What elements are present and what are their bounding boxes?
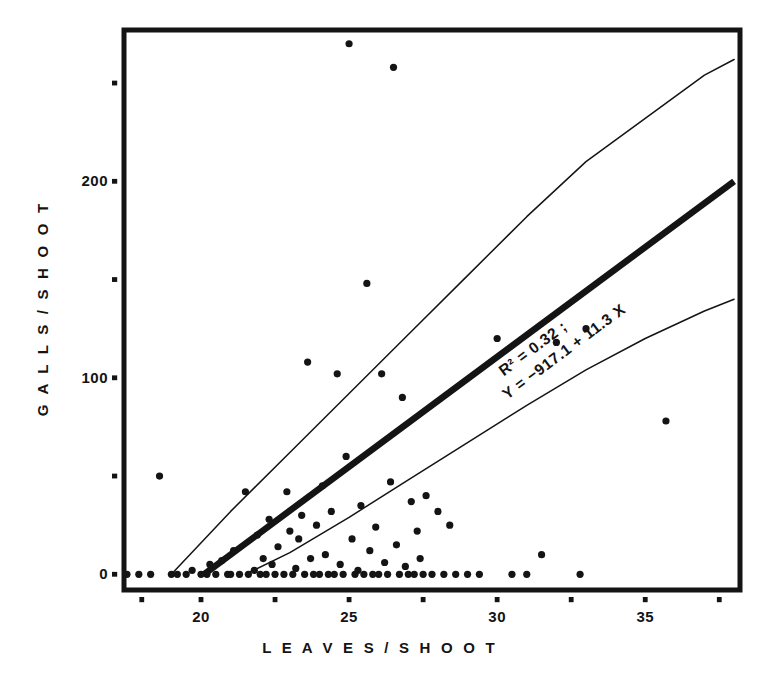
data-point xyxy=(322,551,329,558)
x-tick-mark xyxy=(495,597,500,602)
data-point xyxy=(345,40,352,47)
data-point xyxy=(147,571,154,578)
data-point xyxy=(422,492,429,499)
data-point xyxy=(331,571,338,578)
y-tick-label: 100 xyxy=(52,369,108,386)
data-point xyxy=(212,571,219,578)
data-point xyxy=(381,559,388,566)
x-tick-mark xyxy=(717,597,722,602)
data-point xyxy=(434,508,441,515)
x-tick-mark xyxy=(199,597,204,602)
data-point xyxy=(298,512,305,519)
data-point xyxy=(464,571,471,578)
data-point xyxy=(266,516,273,523)
data-point xyxy=(337,561,344,568)
data-point xyxy=(301,571,308,578)
y-tick-mark xyxy=(112,474,117,479)
data-point xyxy=(408,498,415,505)
data-point xyxy=(494,335,501,342)
data-point xyxy=(366,547,373,554)
confidence-band-upper xyxy=(171,59,734,574)
data-point xyxy=(254,531,261,538)
data-point xyxy=(414,527,421,534)
regression-line-path xyxy=(204,181,734,574)
y-tick-label: 0 xyxy=(52,565,108,582)
plot-canvas: R² = 0.32 ; Y = −917.1 + 11.3 X xyxy=(0,0,763,685)
confidence-bands xyxy=(171,59,734,574)
data-point xyxy=(662,417,669,424)
data-point xyxy=(378,370,385,377)
data-point xyxy=(343,453,350,460)
data-point xyxy=(387,478,394,485)
data-point xyxy=(375,571,382,578)
y-tick-mark xyxy=(112,179,117,184)
x-tick-mark xyxy=(139,597,144,602)
data-point xyxy=(251,567,258,574)
data-point xyxy=(393,541,400,548)
data-point xyxy=(268,561,275,568)
data-point xyxy=(230,547,237,554)
data-point xyxy=(428,571,435,578)
data-point xyxy=(452,571,459,578)
data-points xyxy=(123,40,669,578)
data-point xyxy=(363,280,370,287)
x-tick-mark xyxy=(273,597,278,602)
data-point xyxy=(203,571,210,578)
data-point xyxy=(156,472,163,479)
data-point xyxy=(334,370,341,377)
scatter-plot-figure: R² = 0.32 ; Y = −917.1 + 11.3 X G A L L … xyxy=(0,0,763,685)
y-tick-mark xyxy=(112,277,117,282)
data-point xyxy=(292,565,299,572)
data-point xyxy=(283,488,290,495)
data-point xyxy=(348,535,355,542)
data-point xyxy=(307,555,314,562)
data-point xyxy=(402,563,409,570)
x-tick-mark xyxy=(421,597,426,602)
data-point xyxy=(417,555,424,562)
x-tick-mark xyxy=(643,597,648,602)
data-point xyxy=(357,502,364,509)
x-tick-label: 30 xyxy=(469,608,525,625)
data-point xyxy=(328,508,335,515)
y-tick-mark xyxy=(112,81,117,86)
y-tick-label: 200 xyxy=(52,172,108,189)
data-point xyxy=(123,571,130,578)
data-point xyxy=(295,535,302,542)
data-point xyxy=(523,571,530,578)
data-point xyxy=(446,522,453,529)
data-point xyxy=(263,571,270,578)
data-point xyxy=(206,561,213,568)
data-point xyxy=(271,571,278,578)
data-point xyxy=(245,571,252,578)
data-point xyxy=(396,571,403,578)
regression-line xyxy=(204,181,734,574)
data-point xyxy=(538,551,545,558)
data-point xyxy=(384,571,391,578)
data-point xyxy=(399,394,406,401)
x-axis-title: L E A V E S / S H O O T xyxy=(170,639,590,656)
data-point xyxy=(340,571,347,578)
data-point xyxy=(242,488,249,495)
x-tick-label: 35 xyxy=(617,608,673,625)
data-point xyxy=(420,571,427,578)
y-tick-mark xyxy=(112,572,117,577)
data-point xyxy=(260,555,267,562)
data-point xyxy=(286,527,293,534)
data-point xyxy=(411,571,418,578)
data-point xyxy=(476,571,483,578)
y-axis-title: G A L L S / S H O O T xyxy=(34,199,51,419)
regression-annotation: R² = 0.32 ; Y = −917.1 + 11.3 X xyxy=(495,300,628,402)
data-point xyxy=(183,571,190,578)
data-point xyxy=(274,543,281,550)
data-point xyxy=(135,571,142,578)
data-point xyxy=(236,571,243,578)
x-tick-mark xyxy=(569,597,574,602)
data-point xyxy=(304,358,311,365)
data-point xyxy=(313,522,320,529)
data-point xyxy=(508,571,515,578)
data-point xyxy=(319,482,326,489)
data-point xyxy=(227,571,234,578)
tick-marks xyxy=(112,81,722,603)
x-tick-label: 25 xyxy=(321,608,377,625)
confidence-band-lower xyxy=(245,299,734,574)
